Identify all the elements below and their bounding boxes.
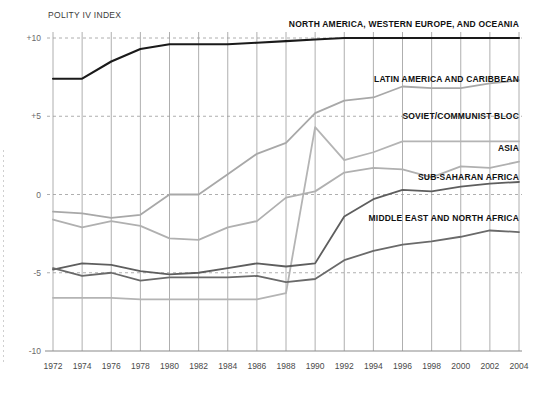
- x-axis-tick-label: 2004: [510, 361, 529, 371]
- x-axis-tick-label: 1982: [189, 361, 208, 371]
- chart-canvas: +10+50-5-1019721974197619781980198219841…: [0, 0, 543, 395]
- x-axis-tick-label: 1978: [131, 361, 150, 371]
- x-axis-tick-label: 1994: [364, 361, 383, 371]
- x-axis-tick-label: 1988: [277, 361, 296, 371]
- chart-axis-title: POLITY IV INDEX: [48, 10, 121, 20]
- series-label: SUB-SAHARAN AFRICA: [418, 172, 519, 182]
- series-label: MIDDLE EAST AND NORTH AFRICA: [369, 213, 519, 223]
- x-axis-tick-label: 1990: [306, 361, 325, 371]
- x-axis-tick-label: 1992: [335, 361, 354, 371]
- x-axis-tick-label: 1984: [218, 361, 237, 371]
- series-label: ASIA: [498, 143, 519, 153]
- x-axis-tick-label: 1974: [73, 361, 92, 371]
- y-axis-tick-label: +10: [27, 33, 42, 43]
- x-axis-tick-label: 2000: [451, 361, 470, 371]
- y-axis-tick-label: -10: [29, 346, 42, 356]
- x-axis-tick-label: 1998: [422, 361, 441, 371]
- x-axis-tick-label: 1996: [393, 361, 412, 371]
- series-label: SOVIET/COMMUNIST BLOC: [402, 111, 519, 121]
- y-axis-tick-label: +5: [31, 111, 41, 121]
- y-axis-tick-label: -5: [33, 268, 41, 278]
- x-axis-tick-label: 1972: [44, 361, 63, 371]
- series-label: NORTH AMERICA, WESTERN EUROPE, AND OCEAN…: [289, 19, 519, 29]
- x-axis-tick-label: 1976: [102, 361, 121, 371]
- x-axis-tick-label: 1980: [160, 361, 179, 371]
- series-label: LATIN AMERICA AND CARIBBEAN: [374, 74, 519, 84]
- x-axis-tick-label: 2002: [480, 361, 499, 371]
- polity-index-chart: +10+50-5-1019721974197619781980198219841…: [0, 0, 543, 395]
- y-axis-tick-label: 0: [36, 190, 41, 200]
- x-axis-tick-label: 1986: [247, 361, 266, 371]
